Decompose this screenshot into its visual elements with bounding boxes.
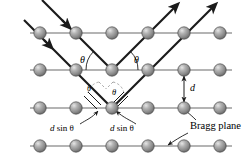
d-spacing-label: d	[190, 83, 195, 93]
path-right-rest: sin θ	[115, 123, 134, 133]
theta-reflected-label: θ	[134, 55, 139, 65]
path-left-rest: sin θ	[55, 123, 74, 133]
atom	[34, 27, 46, 39]
atom	[34, 140, 46, 152]
atom	[142, 27, 154, 39]
path-difference-right-label: d sin θ	[110, 124, 134, 133]
atom	[178, 140, 190, 152]
theta-incident-label: θ	[80, 55, 85, 65]
theta-arc-incident	[86, 52, 94, 71]
atom	[178, 27, 190, 39]
atom	[34, 64, 46, 76]
atom	[70, 140, 82, 152]
atom	[106, 27, 118, 39]
bragg-diagram-svg	[0, 0, 248, 159]
atom	[214, 27, 226, 39]
atom	[70, 27, 82, 39]
atom	[142, 64, 154, 76]
path-difference-left-label: d sin θ	[50, 124, 74, 133]
atom	[178, 64, 190, 76]
reflected-rays	[112, 6, 214, 108]
lower-angle-construction	[88, 82, 124, 93]
atom	[214, 140, 226, 152]
atom	[70, 102, 82, 114]
atom-scatter-row2	[106, 64, 118, 76]
atom	[214, 102, 226, 114]
perp-marker-left	[84, 96, 97, 109]
atom	[214, 64, 226, 76]
dsin-leader-left	[80, 111, 98, 124]
atom-scatter-row3	[106, 102, 118, 114]
atom	[142, 140, 154, 152]
bragg-diffraction-figure: θ θ θ θ d d sin θ d sin θ Bragg plane	[0, 0, 248, 159]
dashed-guide-left	[99, 82, 106, 89]
incident-rays	[24, 0, 112, 108]
atom	[142, 102, 154, 114]
atom	[70, 64, 82, 76]
atom	[178, 102, 190, 114]
atom	[34, 102, 46, 114]
atom	[106, 140, 118, 152]
theta-lower-right-label: θ	[112, 88, 116, 97]
bragg-plane-label: Bragg plane	[190, 121, 241, 132]
theta-lower-left-label: θ	[87, 84, 91, 93]
